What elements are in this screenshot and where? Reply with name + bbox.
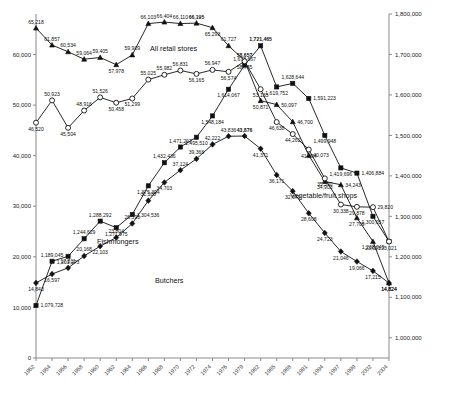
data-label: 1,499,948 bbox=[313, 138, 336, 144]
data-point-diamond[interactable] bbox=[242, 133, 247, 139]
data-label: 50,097 bbox=[281, 102, 297, 108]
data-point-circle[interactable] bbox=[242, 59, 247, 64]
data-point-circle[interactable] bbox=[162, 72, 167, 77]
data-point-square[interactable] bbox=[307, 96, 311, 100]
data-point-circle[interactable] bbox=[354, 204, 359, 209]
data-point-square[interactable] bbox=[194, 135, 198, 139]
data-point-square[interactable] bbox=[371, 214, 375, 218]
data-point-square[interactable] bbox=[355, 171, 359, 175]
data-label: 39,366 bbox=[189, 149, 205, 155]
data-point-triangle[interactable] bbox=[258, 98, 263, 103]
data-point-circle[interactable] bbox=[290, 132, 295, 137]
series-label-butchers: Butchers bbox=[155, 276, 184, 285]
data-point-circle[interactable] bbox=[178, 68, 183, 73]
data-label: 56,831 bbox=[173, 61, 189, 67]
x-axis-tick-label: 1974 bbox=[199, 363, 212, 376]
data-label: 58,657 bbox=[237, 52, 253, 58]
data-point-square[interactable] bbox=[275, 85, 279, 89]
data-point-circle[interactable] bbox=[50, 98, 55, 103]
data-point-square[interactable] bbox=[50, 259, 54, 263]
data-label: 22,103 bbox=[92, 249, 108, 255]
data-point-diamond[interactable] bbox=[34, 280, 39, 286]
data-point-diamond[interactable] bbox=[82, 253, 87, 259]
data-point-diamond[interactable] bbox=[370, 268, 375, 274]
x-axis-tick-label: 2002 bbox=[360, 363, 373, 376]
data-point-diamond[interactable] bbox=[354, 259, 359, 265]
data-label: 34,703 bbox=[157, 185, 173, 191]
right-axis-tick-label: 1,300,000 bbox=[395, 214, 422, 220]
data-point-circle[interactable] bbox=[210, 67, 215, 72]
data-point-diamond[interactable] bbox=[226, 133, 231, 139]
data-point-circle[interactable] bbox=[274, 120, 279, 125]
data-label: 36,171 bbox=[269, 178, 285, 184]
data-label: 51,299 bbox=[124, 101, 140, 107]
data-point-circle[interactable] bbox=[98, 95, 103, 100]
data-label: 35,500 bbox=[317, 181, 333, 187]
data-label: 37,124 bbox=[173, 161, 189, 167]
data-point-circle[interactable] bbox=[258, 87, 263, 92]
data-point-circle[interactable] bbox=[146, 77, 151, 82]
data-label: 24,723 bbox=[317, 236, 333, 242]
data-point-square[interactable] bbox=[259, 44, 263, 48]
data-label: 17,811 bbox=[60, 258, 75, 264]
data-point-circle[interactable] bbox=[306, 147, 311, 152]
data-point-diamond[interactable] bbox=[50, 271, 55, 277]
data-point-circle[interactable] bbox=[322, 176, 327, 181]
data-point-circle[interactable] bbox=[66, 125, 71, 130]
data-label: 1,548,184 bbox=[201, 119, 224, 125]
data-point-square[interactable] bbox=[323, 133, 327, 137]
data-point-square[interactable] bbox=[339, 166, 343, 170]
data-label: 65,293 bbox=[205, 31, 221, 37]
data-point-square[interactable] bbox=[162, 161, 166, 165]
series-label-fishmongers: Fishmongers bbox=[97, 237, 139, 246]
data-point-triangle[interactable] bbox=[354, 215, 359, 220]
data-point-circle[interactable] bbox=[82, 108, 87, 113]
data-point-diamond[interactable] bbox=[178, 167, 183, 173]
data-label: 57,978 bbox=[108, 68, 124, 74]
x-axis-tick-label: 1970 bbox=[167, 363, 180, 376]
data-label: 44,262 bbox=[285, 137, 301, 143]
data-point-triangle[interactable] bbox=[162, 19, 167, 24]
x-axis-tick-label: 1985 bbox=[263, 363, 276, 376]
data-label: 65,218 bbox=[28, 19, 44, 25]
data-point-triangle[interactable] bbox=[34, 25, 39, 30]
data-point-circle[interactable] bbox=[34, 120, 39, 125]
data-point-circle[interactable] bbox=[338, 202, 343, 207]
x-axis-tick-label: 1964 bbox=[119, 363, 132, 376]
data-label: 1,495,510 bbox=[185, 140, 208, 146]
data-point-square[interactable] bbox=[82, 237, 86, 241]
x-axis-tick-label: 1968 bbox=[151, 363, 164, 376]
data-point-square[interactable] bbox=[291, 81, 295, 85]
x-axis-tick-label: 1982 bbox=[247, 363, 260, 376]
data-label: 34,243 bbox=[345, 182, 361, 188]
data-label: 59,064 bbox=[76, 50, 92, 56]
data-point-circle[interactable] bbox=[226, 69, 231, 74]
data-label: 56,574 bbox=[221, 75, 237, 81]
series-label-vegetable-fruit-shops: Vegetable/fruit shops bbox=[290, 191, 358, 200]
x-axis-tick-label: 1952 bbox=[23, 363, 36, 376]
x-axis-tick-label: 1958 bbox=[71, 363, 84, 376]
data-point-circle[interactable] bbox=[130, 96, 135, 101]
data-point-circle[interactable] bbox=[194, 71, 199, 76]
data-label: 14,843 bbox=[28, 286, 44, 292]
data-point-circle[interactable] bbox=[114, 100, 119, 105]
data-point-diamond[interactable] bbox=[66, 265, 71, 271]
x-axis-tick-label: 1960 bbox=[87, 363, 100, 376]
data-point-square[interactable] bbox=[210, 114, 214, 118]
data-point-triangle[interactable] bbox=[130, 52, 135, 57]
data-point-square[interactable] bbox=[226, 87, 230, 91]
data-point-square[interactable] bbox=[146, 184, 150, 188]
data-point-circle[interactable] bbox=[387, 239, 392, 244]
data-point-square[interactable] bbox=[178, 145, 182, 149]
data-label: 56,165 bbox=[189, 77, 205, 83]
data-point-diamond[interactable] bbox=[258, 146, 263, 152]
data-label: 28,608 bbox=[301, 216, 317, 222]
data-point-triangle[interactable] bbox=[98, 55, 103, 60]
data-point-square[interactable] bbox=[98, 219, 102, 223]
data-point-circle[interactable] bbox=[370, 205, 375, 210]
data-label: 46,700 bbox=[297, 119, 313, 125]
data-label: 1,189,045 bbox=[41, 252, 64, 258]
left-axis-tick-label: 0 bbox=[28, 355, 32, 361]
data-point-square[interactable] bbox=[34, 303, 38, 307]
data-label: 61,857 bbox=[44, 36, 60, 42]
